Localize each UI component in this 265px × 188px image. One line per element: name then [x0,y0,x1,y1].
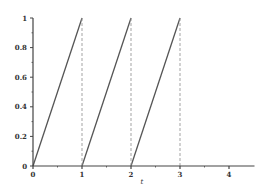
y-tick-label: 1 [22,14,27,23]
y-tick-label: 0.6 [15,73,27,82]
sawtooth-ramp-line [131,18,180,166]
x-tick-label: 3 [178,170,183,179]
x-tick-label: 1 [80,170,85,179]
axes [33,18,255,166]
sawtooth-ramp-line [82,18,131,166]
y-tick-label: 0.4 [15,102,27,111]
y-tick-label: 0.8 [15,43,27,52]
plot-lines [33,18,180,166]
x-axis-label: t [141,178,144,186]
y-ticks: 00.20.40.60.81 [15,14,33,171]
y-tick-label: 0 [22,162,27,171]
x-tick-label: 0 [31,170,36,179]
x-tick-label: 2 [129,170,134,179]
y-tick-label: 0.2 [15,132,27,141]
sawtooth-chart: 00.20.40.60.81 01234 t [0,0,265,188]
x-tick-label: 4 [227,170,232,179]
sawtooth-ramp-line [33,18,82,166]
x-ticks: 01234 [31,166,232,179]
